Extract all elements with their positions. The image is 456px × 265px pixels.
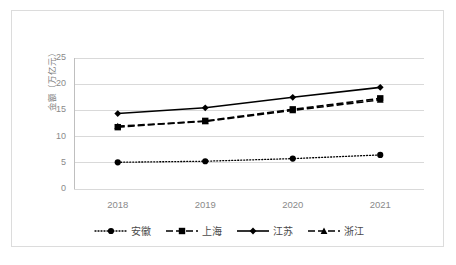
plot-area <box>12 11 445 248</box>
chart-frame: 金额（万亿元） 2520151050 2018201920202021 安徽上海… <box>11 10 444 247</box>
legend-item-浙江[interactable]: 浙江 <box>307 223 364 238</box>
series-line <box>118 155 381 162</box>
legend-label: 浙江 <box>344 223 364 238</box>
legend-key-icon <box>94 225 128 237</box>
legend-label: 上海 <box>202 223 222 238</box>
legend-item-江苏[interactable]: 江苏 <box>236 223 293 238</box>
chart-legend: 安徽上海江苏浙江 <box>12 223 445 238</box>
legend-key-icon <box>165 225 199 237</box>
legend-item-安徽[interactable]: 安徽 <box>94 223 151 238</box>
data-point-marker <box>202 158 208 164</box>
data-point-marker <box>115 159 121 165</box>
series-1 <box>115 95 384 130</box>
data-point-marker <box>107 227 113 233</box>
data-point-marker <box>289 94 296 101</box>
data-point-marker <box>249 227 256 234</box>
legend-label: 安徽 <box>131 223 151 238</box>
series-2 <box>114 84 383 117</box>
legend-key-icon <box>307 225 341 237</box>
legend-label: 江苏 <box>273 223 293 238</box>
data-point-marker <box>290 156 296 162</box>
data-point-marker <box>114 110 121 117</box>
legend-item-上海[interactable]: 上海 <box>165 223 222 238</box>
data-point-marker <box>178 227 184 233</box>
data-point-marker <box>377 84 384 91</box>
data-point-marker <box>377 152 383 158</box>
series-line <box>118 100 381 126</box>
series-line <box>118 87 381 113</box>
series-3 <box>114 97 383 129</box>
legend-key-icon <box>236 225 270 237</box>
series-0 <box>115 152 384 166</box>
chart-container: 金额（万亿元） 2520151050 2018201920202021 安徽上海… <box>0 0 456 265</box>
